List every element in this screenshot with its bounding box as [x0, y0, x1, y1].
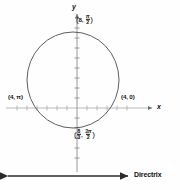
fraction-denominator: 3: [77, 134, 81, 140]
theta-fraction: π2: [85, 14, 90, 26]
directrix-label: Directrix: [134, 171, 162, 178]
fraction-denominator: 2: [86, 134, 90, 140]
point-label-left: (4, π): [8, 94, 23, 100]
fraction-denominator: 2: [86, 19, 90, 25]
conic-curve: [27, 32, 119, 128]
y-axis-label: y: [72, 3, 76, 10]
paren-close: ): [92, 130, 95, 139]
point-label-top: (8, π2): [76, 14, 93, 26]
point-label-bottom: (83, 3π2): [74, 129, 95, 141]
theta-fraction: 3π2: [84, 129, 92, 141]
paren-close: ): [90, 15, 93, 24]
y-axis: [75, 14, 80, 172]
x-axis-label: x: [157, 103, 161, 110]
graph-canvas: [0, 0, 180, 190]
graph-figure: y x (8, π2) (4, π) (4, 0) (83, 3π2) Dire…: [0, 0, 180, 190]
radius-fraction: 83: [77, 129, 81, 141]
point-label-right: (4, 0): [121, 94, 135, 100]
x-axis: [6, 106, 152, 111]
